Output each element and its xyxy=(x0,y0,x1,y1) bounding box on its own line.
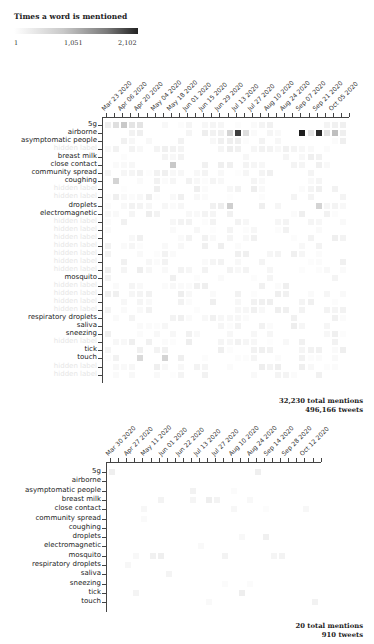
heatmap-cell xyxy=(113,162,119,168)
heatmap-cell xyxy=(150,553,156,559)
heatmap-cell xyxy=(275,291,281,297)
x-axis-line xyxy=(106,462,321,463)
heatmap-cell xyxy=(239,590,245,596)
heatmap-cell xyxy=(178,122,184,128)
heatmap-cell xyxy=(162,122,168,128)
heatmap-cell xyxy=(178,235,184,241)
heatmap-cell xyxy=(162,154,168,160)
heatmap-cell xyxy=(308,259,314,265)
heatmap-cell xyxy=(267,339,273,345)
heatmap-cell xyxy=(251,122,257,128)
heatmap-cell xyxy=(162,339,168,345)
legend-tick-min: 1 xyxy=(14,39,18,47)
x-tick xyxy=(313,458,314,462)
heatmap-cell xyxy=(259,259,265,265)
heatmap-cell xyxy=(308,194,314,200)
heatmap-cell xyxy=(178,243,184,249)
heatmap-cell xyxy=(235,299,241,305)
x-tick xyxy=(240,458,241,462)
row-label: airborne xyxy=(72,476,101,484)
x-tick xyxy=(244,113,245,117)
heatmap-cell xyxy=(283,154,289,160)
x-tick xyxy=(130,113,131,117)
heatmap-cell-highlight xyxy=(235,130,241,136)
heatmap-cell xyxy=(113,194,119,200)
heatmap-cell xyxy=(129,203,135,209)
heatmap-cell xyxy=(121,194,127,200)
chart2-tweets-count: 910 tweets xyxy=(322,631,363,639)
heatmap-cell xyxy=(218,146,224,152)
heatmap-cell xyxy=(308,291,314,297)
heatmap-cell xyxy=(162,267,168,273)
row-label: touch xyxy=(77,353,97,361)
heatmap-cell xyxy=(154,259,160,265)
heatmap-cell xyxy=(275,251,281,257)
heatmap-cell xyxy=(202,178,208,184)
heatmap-cell xyxy=(210,203,216,209)
heatmap-cell xyxy=(154,372,160,378)
heatmap-cell xyxy=(137,130,143,136)
heatmap-cell xyxy=(291,146,297,152)
row-label: hidden label xyxy=(54,305,97,313)
y-tick xyxy=(98,222,102,223)
heatmap-cell xyxy=(324,122,330,128)
heatmap-cell xyxy=(121,307,127,313)
row-label: hidden label xyxy=(54,184,97,192)
row-label: hidden label xyxy=(54,289,97,297)
heatmap-cell xyxy=(170,170,176,176)
x-tick xyxy=(215,458,216,462)
heatmap-cell xyxy=(133,590,139,596)
heatmap-cell xyxy=(251,339,257,345)
y-tick xyxy=(98,197,102,198)
heatmap-cell xyxy=(121,299,127,305)
heatmap-cell xyxy=(227,235,233,241)
heatmap-cell-highlight xyxy=(129,122,135,128)
heatmap-cell xyxy=(275,227,281,233)
heatmap-cell xyxy=(251,178,257,184)
heatmap-cell xyxy=(105,219,111,225)
x-tick xyxy=(321,458,322,462)
heatmap-cell xyxy=(210,211,216,217)
heatmap-cell xyxy=(324,307,330,313)
row-label: tick xyxy=(88,588,101,596)
row-label: hidden label xyxy=(54,192,97,200)
heatmap-cell xyxy=(186,178,192,184)
x-tick xyxy=(317,113,318,117)
heatmap-cell xyxy=(202,364,208,370)
x-tick xyxy=(134,458,135,462)
heatmap-cell xyxy=(202,170,208,176)
heatmap-cell xyxy=(243,315,249,321)
heatmap-cell xyxy=(239,534,245,540)
heatmap-cell xyxy=(178,291,184,297)
heatmap-cell xyxy=(267,170,273,176)
heatmap-cell xyxy=(186,291,192,297)
heatmap-cell xyxy=(105,211,111,217)
heatmap-cell xyxy=(137,194,143,200)
heatmap-cell xyxy=(137,235,143,241)
heatmap-cell xyxy=(170,194,176,200)
heatmap-cell xyxy=(137,283,143,289)
y-tick xyxy=(98,141,102,142)
heatmap-cell xyxy=(332,299,338,305)
heatmap-cell xyxy=(158,497,164,503)
y-tick xyxy=(98,230,102,231)
row-label: 5g xyxy=(88,120,97,128)
heatmap-cell xyxy=(162,259,168,265)
heatmap-cell xyxy=(255,469,261,475)
heatmap-cell xyxy=(316,186,322,192)
heatmap-cell xyxy=(218,178,224,184)
heatmap-cell xyxy=(218,275,224,281)
heatmap-cell xyxy=(299,347,305,353)
heatmap-cell xyxy=(267,299,273,305)
heatmap-cell xyxy=(332,347,338,353)
x-tick xyxy=(138,113,139,117)
heatmap-cell xyxy=(218,347,224,353)
y-tick xyxy=(98,286,102,287)
heatmap-cell xyxy=(340,122,346,128)
heatmap-cell xyxy=(137,251,143,257)
heatmap-cell xyxy=(202,122,208,128)
y-tick xyxy=(98,375,102,376)
heatmap-cell xyxy=(312,599,318,605)
heatmap-cell xyxy=(299,355,305,361)
heatmap-cell xyxy=(113,315,119,321)
